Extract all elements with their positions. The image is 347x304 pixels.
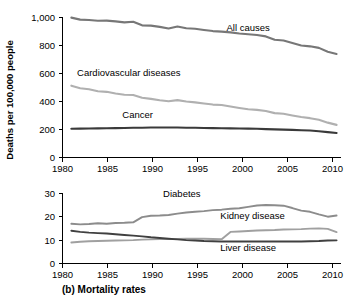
y-tick-label-top-0: 0 <box>50 152 55 163</box>
x-tick-label-bottom-0: 1980 <box>52 269 73 280</box>
x-tick-label-top-0: 1980 <box>52 163 73 174</box>
x-tick-labels-top: 1980 1985 1990 1995 2000 2005 2010 <box>52 163 343 174</box>
mortality-rates-figure: Deaths per 100,000 people 0 200 400 600 … <box>0 0 347 304</box>
x-tick-label-top-5: 2005 <box>277 163 298 174</box>
y-tick-label-top-1: 200 <box>39 124 55 135</box>
y-tick-labels-top: 0 200 400 600 800 1,000 <box>31 12 55 163</box>
y-tick-label-top-2: 400 <box>39 96 55 107</box>
series-label-diabetes: Diabetes <box>163 188 201 199</box>
series-line-all-causes <box>71 18 336 54</box>
x-tick-labels-bottom: 1980 1985 1990 1995 2000 2005 2010 <box>52 269 343 280</box>
chart-canvas: Deaths per 100,000 people 0 200 400 600 … <box>0 0 347 304</box>
x-ticks-bottom <box>63 264 333 268</box>
x-tick-label-bottom-3: 1995 <box>187 269 208 280</box>
y-tick-label-top-3: 600 <box>39 68 55 79</box>
series-label-kidney-disease: Kidney disease <box>220 210 284 221</box>
x-tick-label-bottom-5: 2005 <box>277 269 298 280</box>
series-label-cancer: Cancer <box>122 109 153 120</box>
y-tick-label-bottom-2: 20 <box>44 211 55 222</box>
series-label-liver-disease: Liver disease <box>220 242 276 253</box>
series-line-cardiovascular-diseases <box>71 86 336 125</box>
bottom-panel: 0 10 20 30 1980 1985 1990 1995 <box>44 188 343 280</box>
series-line-cancer <box>71 128 336 133</box>
x-tick-label-top-3: 1995 <box>187 163 208 174</box>
x-tick-label-top-6: 2010 <box>322 163 343 174</box>
x-ticks-top <box>63 158 333 162</box>
bottom-panel-annotations: Diabetes Kidney disease Liver disease <box>163 188 285 253</box>
y-ticks-top <box>59 18 63 158</box>
series-line-diabetes <box>71 205 336 224</box>
y-tick-label-top-4: 800 <box>39 40 55 51</box>
x-tick-label-top-1: 1985 <box>97 163 118 174</box>
x-tick-label-bottom-2: 1990 <box>142 269 163 280</box>
x-tick-label-bottom-4: 2000 <box>232 269 253 280</box>
y-tick-label-bottom-3: 30 <box>44 188 55 199</box>
y-tick-label-top-5: 1,000 <box>31 12 55 23</box>
bottom-panel-series <box>71 205 336 242</box>
series-label-all-causes: All causes <box>227 22 271 33</box>
top-panel: Deaths per 100,000 people 0 200 400 600 … <box>4 12 343 174</box>
top-panel-annotations: All causes Cardiovascular diseases Cance… <box>77 22 270 120</box>
y-tick-labels-bottom: 0 10 20 30 <box>44 188 55 269</box>
x-tick-label-top-2: 1990 <box>142 163 163 174</box>
x-tick-label-top-4: 2000 <box>232 163 253 174</box>
y-tick-label-bottom-1: 10 <box>44 235 55 246</box>
y-axis-title-top: Deaths per 100,000 people <box>4 40 15 159</box>
y-ticks-bottom <box>59 193 63 263</box>
series-label-cardiovascular-diseases: Cardiovascular diseases <box>77 67 181 78</box>
y-tick-label-bottom-0: 0 <box>50 258 55 269</box>
figure-caption: (b) Mortality rates <box>62 284 146 295</box>
x-tick-label-bottom-6: 2010 <box>322 269 343 280</box>
x-tick-label-bottom-1: 1985 <box>97 269 118 280</box>
